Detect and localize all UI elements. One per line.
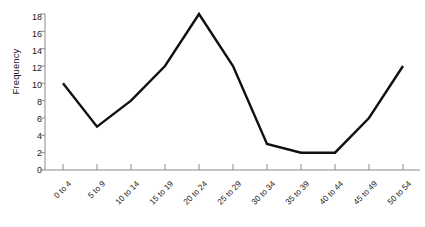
frequency-polygon-chart: Frequency 0 2 4 6 8 10 12 14 16 18 0 to … xyxy=(0,0,425,227)
plot-area xyxy=(0,0,425,227)
frequency-data-line xyxy=(63,14,403,153)
x-tick-marks xyxy=(63,164,403,170)
y-tick-marks xyxy=(40,14,45,170)
